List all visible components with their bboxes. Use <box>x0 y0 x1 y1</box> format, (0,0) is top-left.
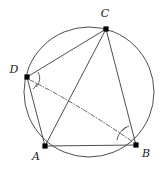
geometry-figure: C D A B <box>0 0 166 173</box>
segment-da <box>27 77 45 146</box>
angle-arc-b-outer <box>117 127 126 140</box>
segment-ab <box>45 145 136 146</box>
vertex-point-b <box>133 142 138 147</box>
vertex-label-a: A <box>31 150 40 163</box>
segment-dc <box>27 29 106 77</box>
angle-arc-b-inner <box>122 126 129 131</box>
vertex-point-c <box>103 26 108 31</box>
angle-arc-d-inner <box>33 83 37 89</box>
vertex-point-d <box>24 74 29 79</box>
vertex-label-d: D <box>9 63 19 76</box>
vertex-point-a <box>42 143 47 148</box>
segment-cb <box>106 29 136 145</box>
segment-ca <box>45 29 106 146</box>
geometry-canvas: C D A B <box>0 0 166 173</box>
vertex-label-c: C <box>101 7 110 20</box>
vertex-label-b: B <box>141 147 150 160</box>
dashdot-curve-db <box>30 80 133 142</box>
